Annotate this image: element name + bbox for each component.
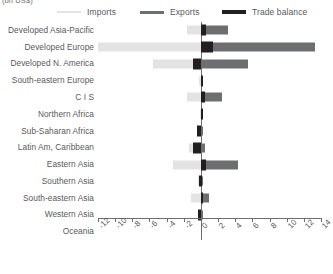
legend-item-trade-balance: Trade balance (222, 4, 307, 20)
bar-row (98, 156, 321, 173)
bar-row (98, 56, 321, 73)
bar-exports (201, 143, 205, 152)
legend-label-exports: Exports (170, 7, 200, 17)
bar-trade-balance (197, 125, 200, 136)
bar-imports (173, 160, 201, 169)
axis-tick-label: 8 (269, 221, 279, 231)
bar-imports (191, 194, 201, 203)
bar-row (98, 72, 321, 89)
category-label: Northern Africa (38, 110, 94, 119)
bar-exports (201, 43, 315, 52)
bar-imports (187, 26, 201, 35)
bar-trade-balance (201, 75, 204, 86)
bar-row (98, 123, 321, 140)
legend-label-imports: Imports (87, 7, 116, 17)
legend-item-imports: Imports (57, 4, 116, 20)
bar-row (98, 190, 321, 207)
category-label: Developed N. America (10, 59, 94, 68)
category-label: Southern Asia (42, 177, 94, 186)
bar-trade-balance (201, 25, 206, 36)
category-label: Western Asia (45, 210, 94, 219)
category-label: C I S (75, 93, 94, 102)
category-label: South-eastern Europe (12, 76, 94, 85)
bar-row (98, 173, 321, 190)
legend-swatch-imports (57, 11, 81, 13)
axis-tick-label: -6 (148, 219, 159, 230)
axis-tick-label: -2 (183, 219, 194, 230)
bar-trade-balance (201, 92, 205, 103)
value-axis: -12-10-8-6-4-202468101214 (98, 218, 321, 274)
category-label: South-eastern Asia (23, 194, 94, 203)
legend-swatch-trade-balance (222, 10, 246, 14)
bar-trade-balance (201, 159, 206, 170)
category-label: Eastern Asia (47, 160, 94, 169)
bar-exports (201, 59, 248, 68)
bar-trade-balance (193, 58, 201, 69)
category-axis-labels: Developed Asia-PacificDeveloped EuropeDe… (0, 22, 98, 240)
axis-tick-label: 2 (217, 221, 227, 231)
category-label: Latin Am, Caribbean (18, 143, 94, 152)
legend-label-trade-balance: Trade balance (252, 7, 307, 17)
axis-tick-label: 0 (200, 221, 210, 231)
bar-row (98, 139, 321, 156)
bar-trade-balance (199, 176, 202, 187)
axis-tick-label: 6 (251, 221, 261, 231)
bars-area (98, 22, 321, 240)
bar-exports (201, 126, 203, 135)
legend-item-exports: Exports (140, 4, 200, 20)
axis-tick-label: -8 (131, 219, 142, 230)
category-label: Developed Asia-Pacific (8, 26, 94, 35)
legend-swatch-exports (140, 11, 164, 14)
bar-trade-balance (201, 193, 204, 204)
chart-legend: Imports Exports Trade balance (0, 4, 321, 20)
axis-tick-label: 4 (234, 221, 244, 231)
bar-trade-balance (201, 109, 204, 120)
category-label: Sub-Saharan Africa (21, 127, 94, 136)
bar-row (98, 22, 321, 39)
bar-imports (187, 93, 201, 102)
bar-row (98, 106, 321, 123)
category-label: Developed Europe (24, 43, 94, 52)
bar-row (98, 39, 321, 56)
bar-trade-balance (201, 42, 213, 53)
category-label: Oceania (63, 227, 94, 236)
bar-row (98, 89, 321, 106)
bar-exports (201, 160, 238, 169)
bar-imports (98, 43, 201, 52)
bar-trade-balance (193, 142, 201, 153)
